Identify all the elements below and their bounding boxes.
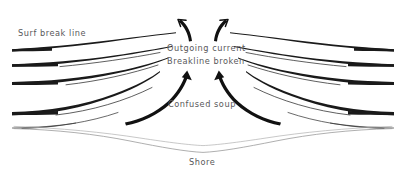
outgoing-arrow-left bbox=[179, 20, 192, 42]
shore-group bbox=[14, 126, 392, 152]
shore-line-lower bbox=[14, 126, 392, 145]
outgoing-arrow-right bbox=[214, 20, 227, 42]
wave-line-right-1-taper bbox=[354, 47, 394, 51]
wave-thin-left-1 bbox=[60, 53, 160, 67]
wave-thin-right-1 bbox=[246, 53, 346, 67]
wave-thin-right-3 bbox=[254, 88, 350, 116]
outgoing-arrows-group bbox=[178, 19, 228, 41]
label-confused-soup: Confused soup bbox=[168, 100, 236, 108]
wave-thin-left-3 bbox=[56, 88, 152, 116]
label-breakline-broken: Breakline broken bbox=[167, 57, 245, 65]
label-outgoing-current: Outgoing current bbox=[167, 44, 246, 52]
label-shore: Shore bbox=[189, 158, 215, 166]
shore-line-upper bbox=[14, 129, 392, 153]
label-surf-break-line: Surf break line bbox=[18, 29, 86, 37]
diagram-canvas bbox=[0, 0, 406, 177]
wave-line-left-1-taper bbox=[12, 47, 52, 51]
rip-current-diagram: Surf break line Outgoing current Breakli… bbox=[0, 0, 406, 177]
